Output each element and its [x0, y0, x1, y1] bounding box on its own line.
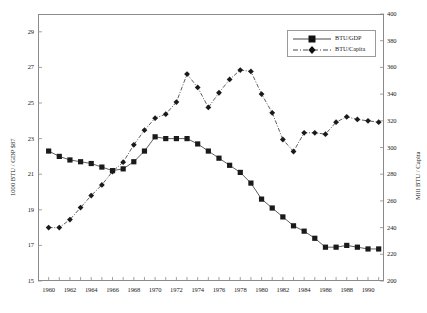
- axis-tick-label: 27: [18, 63, 34, 70]
- data-point-marker: [56, 225, 62, 231]
- right-axis-title: Mill BTU / Capita: [414, 151, 421, 200]
- axis-tick-label: 260: [387, 197, 405, 204]
- axis-tick-label: 19: [18, 206, 34, 213]
- axis-tick-label: 400: [387, 10, 405, 17]
- series-line: [49, 70, 379, 228]
- data-point-marker: [269, 110, 275, 116]
- data-point-marker: [174, 136, 179, 141]
- data-point-marker: [57, 154, 62, 159]
- data-point-marker: [301, 130, 307, 136]
- data-point-marker: [78, 159, 83, 164]
- data-point-marker: [312, 130, 318, 136]
- data-point-marker: [333, 245, 338, 250]
- data-point-marker: [184, 71, 190, 77]
- axis-tick-label: 200: [387, 277, 405, 284]
- left-axis-title: 1000 BTU / GDP $87: [9, 138, 16, 196]
- data-point-marker: [376, 119, 382, 125]
- data-point-marker: [312, 236, 317, 241]
- data-point-marker: [344, 114, 350, 120]
- x-axis-ticks: [49, 277, 379, 281]
- left-axis-ticks: [38, 32, 42, 281]
- data-point-marker: [67, 157, 72, 162]
- axis-tick-label: 360: [387, 63, 405, 70]
- data-series-layer: [46, 67, 382, 251]
- data-point-marker: [302, 229, 307, 234]
- data-point-marker: [46, 148, 51, 153]
- data-point-marker: [216, 90, 222, 96]
- data-point-marker: [376, 246, 381, 251]
- data-point-marker: [46, 225, 52, 231]
- data-point-marker: [131, 159, 136, 164]
- data-point-marker: [195, 85, 201, 91]
- data-point-marker: [206, 148, 211, 153]
- data-point-marker: [227, 77, 233, 83]
- data-point-marker: [142, 127, 148, 133]
- chart-legend: BTU/GDP BTU/Capita: [287, 30, 376, 57]
- right-axis-ticks: [380, 14, 384, 281]
- axis-tick-label: 1990: [355, 286, 381, 293]
- data-point-marker: [121, 166, 126, 171]
- axis-tick-label: 380: [387, 37, 405, 44]
- data-point-marker: [89, 161, 94, 166]
- data-point-marker: [184, 136, 189, 141]
- data-point-marker: [216, 156, 221, 161]
- data-point-marker: [227, 163, 232, 168]
- data-point-marker: [365, 246, 370, 251]
- axis-tick-label: 29: [18, 28, 34, 35]
- data-point-marker: [259, 197, 264, 202]
- data-point-marker: [237, 67, 243, 73]
- data-point-marker: [99, 164, 104, 169]
- data-point-marker: [248, 181, 253, 186]
- data-point-marker: [259, 91, 265, 97]
- data-point-marker: [153, 134, 158, 139]
- data-point-marker: [344, 243, 349, 248]
- data-point-marker: [205, 105, 211, 111]
- data-point-marker: [248, 69, 254, 75]
- data-point-marker: [238, 170, 243, 175]
- data-point-marker: [355, 245, 360, 250]
- data-point-marker: [163, 136, 168, 141]
- axis-tick-label: 240: [387, 224, 405, 231]
- legend-item-btu-capita: BTU/Capita: [288, 44, 377, 56]
- data-point-marker: [280, 214, 285, 219]
- data-point-marker: [195, 141, 200, 146]
- chart-figure: 1000 BTU / GDP $87 Mill BTU / Capita 151…: [0, 0, 427, 313]
- axis-tick-label: 15: [18, 277, 34, 284]
- axis-tick-label: 340: [387, 90, 405, 97]
- axis-tick-label: 220: [387, 250, 405, 257]
- legend-label-btu-capita: BTU/Capita: [335, 45, 365, 52]
- data-point-marker: [280, 137, 286, 143]
- axis-tick-label: 320: [387, 117, 405, 124]
- data-point-marker: [270, 205, 275, 210]
- data-point-marker: [323, 245, 328, 250]
- axis-tick-label: 280: [387, 170, 405, 177]
- data-point-marker: [131, 142, 137, 148]
- axis-tick-label: 23: [18, 135, 34, 142]
- series-line: [49, 137, 379, 249]
- data-point-marker: [291, 223, 296, 228]
- axis-tick-label: 300: [387, 144, 405, 151]
- legend-swatch-diamond-icon: [292, 44, 332, 56]
- data-point-marker: [354, 117, 360, 123]
- data-point-marker: [142, 148, 147, 153]
- axis-tick-label: 17: [18, 241, 34, 248]
- legend-label-btu-gdp: BTU/GDP: [335, 34, 361, 41]
- axis-tick-label: 21: [18, 170, 34, 177]
- data-point-marker: [163, 111, 169, 117]
- axis-tick-label: 25: [18, 99, 34, 106]
- data-point-marker: [365, 118, 371, 124]
